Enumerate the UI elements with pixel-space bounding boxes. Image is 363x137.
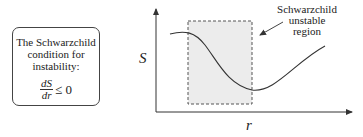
- x-axis-label: r: [246, 117, 252, 134]
- region-label: Schwarzchild unstable region: [270, 4, 344, 37]
- unstable-region: [188, 21, 252, 104]
- region-label-line-3: region: [270, 26, 344, 37]
- y-axis-label: S: [139, 50, 147, 67]
